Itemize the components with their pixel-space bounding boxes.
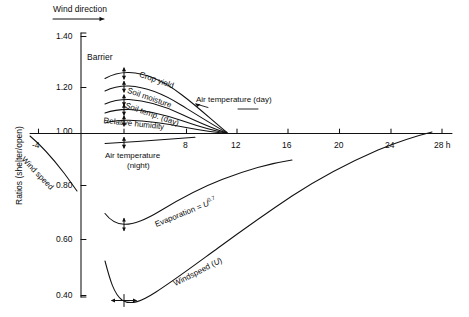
x-tick-20: 20 (334, 140, 343, 150)
y-axis-ticks (81, 33, 86, 297)
curve-air-temp-night (105, 137, 195, 143)
x-tick-28: 28 h (434, 140, 451, 150)
y-axis-title: Ratios (shelter/open) (14, 126, 24, 205)
x-axis-ticks (39, 129, 443, 134)
y-tick-1-40: 1.40 (56, 31, 73, 41)
curve-label-air-temp-night-line1: Air temperature (105, 151, 160, 160)
wind-direction-arrow (53, 17, 104, 21)
barrier-label: Barrier (87, 52, 113, 62)
curve-label-air-temp-day: Air temperature (day) (196, 95, 272, 104)
curve-label-air-temp-night-line2: (night) (127, 161, 150, 170)
wind-direction-label: Wind direction (53, 4, 107, 14)
marker-windspeed (111, 295, 137, 307)
y-tick-1-00: 1.00 (56, 126, 73, 136)
y-tick-0-60: 0.60 (56, 234, 73, 244)
chart-canvas (0, 0, 469, 317)
x-tick-16: 16 (282, 140, 291, 150)
y-tick-0-80: 0.80 (56, 180, 73, 190)
x-tick-24: 24 (385, 140, 394, 150)
x-tick-12: 12 (231, 140, 240, 150)
x-tick-8: 8 (183, 140, 188, 150)
chart-figure: Wind direction Barrier 1.40 1.20 1.00 0.… (0, 0, 469, 317)
x-tick-minus4: -4 (32, 140, 40, 150)
y-tick-0-40: 0.40 (56, 290, 73, 300)
evaporation-label-exponent: 0.7 (206, 195, 215, 203)
y-tick-1-20: 1.20 (56, 82, 73, 92)
